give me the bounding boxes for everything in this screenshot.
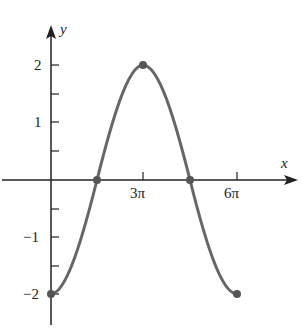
point-max — [139, 61, 147, 69]
xtick-label-6pi: 6π — [224, 185, 240, 201]
ytick-label-2: 2 — [34, 57, 42, 73]
ytick-label-1: 1 — [34, 114, 42, 130]
x-axis-label: x — [280, 155, 288, 171]
point-end — [233, 290, 241, 298]
ytick-label-neg1: −1 — [23, 229, 39, 245]
point-zero-2 — [186, 176, 194, 184]
chart-canvas: y x 2 1 −1 −2 3π 6π — [0, 0, 307, 328]
point-start — [47, 290, 55, 298]
xtick-label-3pi: 3π — [130, 185, 146, 201]
ytick-label-neg2: −2 — [23, 286, 39, 302]
y-axis-label: y — [58, 21, 67, 37]
point-zero-1 — [93, 176, 101, 184]
